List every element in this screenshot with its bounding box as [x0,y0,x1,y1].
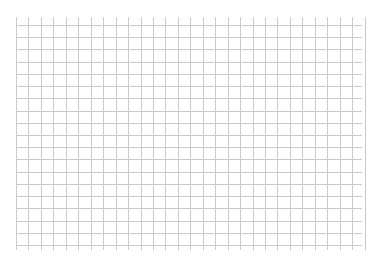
graph-paper-canvas [0,0,377,256]
grid-lines [0,0,377,256]
